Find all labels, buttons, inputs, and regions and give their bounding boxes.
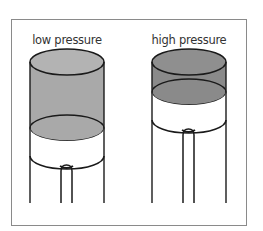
liquid-top-high xyxy=(152,49,226,75)
syringe-diagram xyxy=(0,0,263,231)
piston-top-high xyxy=(152,79,226,105)
cylinder-high-pressure xyxy=(152,49,226,203)
piston-rod-low xyxy=(61,165,72,203)
piston-top-low xyxy=(30,115,104,141)
cylinder-low-pressure xyxy=(30,49,104,203)
liquid-top-low xyxy=(30,49,104,75)
piston-rod-high xyxy=(183,129,194,203)
